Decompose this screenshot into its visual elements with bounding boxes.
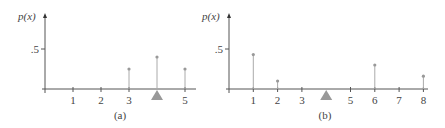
stem-point (183, 67, 186, 70)
chart-panel-b: p(x).51235678(b) (201, 10, 428, 122)
x-tick-label: 1 (251, 94, 257, 106)
x-tick-label: 1 (70, 94, 76, 106)
y-axis-arrow-icon (43, 13, 47, 18)
y-tick-label: .5 (215, 43, 224, 55)
stem-point (155, 55, 158, 58)
y-axis-label: p(x) (201, 10, 220, 23)
x-tick-label: 5 (348, 94, 354, 106)
x-tick-label: 3 (126, 94, 132, 106)
x-tick-label: 2 (98, 94, 104, 106)
fulcrum-triangle-icon (151, 90, 163, 100)
stem-point (276, 79, 279, 82)
x-tick-label: 5 (182, 94, 188, 106)
x-tick-label: 7 (396, 94, 402, 106)
x-tick-label: 8 (421, 94, 427, 106)
fulcrum-triangle-icon (320, 90, 332, 100)
stem-point (422, 75, 425, 78)
y-tick-label: .5 (31, 43, 40, 55)
y-axis-label: p(x) (17, 10, 36, 23)
x-tick-label: 2 (275, 94, 281, 106)
panel-label: (a) (114, 109, 127, 122)
stem-point (127, 67, 130, 70)
x-tick-label: 3 (299, 94, 305, 106)
chart-panel-a: p(x).51235(a) (17, 10, 196, 122)
stem-point (373, 63, 376, 66)
panel-label: (b) (319, 109, 332, 122)
stem-point (252, 53, 255, 56)
y-axis-arrow-icon (227, 13, 231, 18)
x-tick-label: 6 (372, 94, 378, 106)
chart-canvas: p(x).51235(a)p(x).51235678(b) (0, 0, 445, 128)
